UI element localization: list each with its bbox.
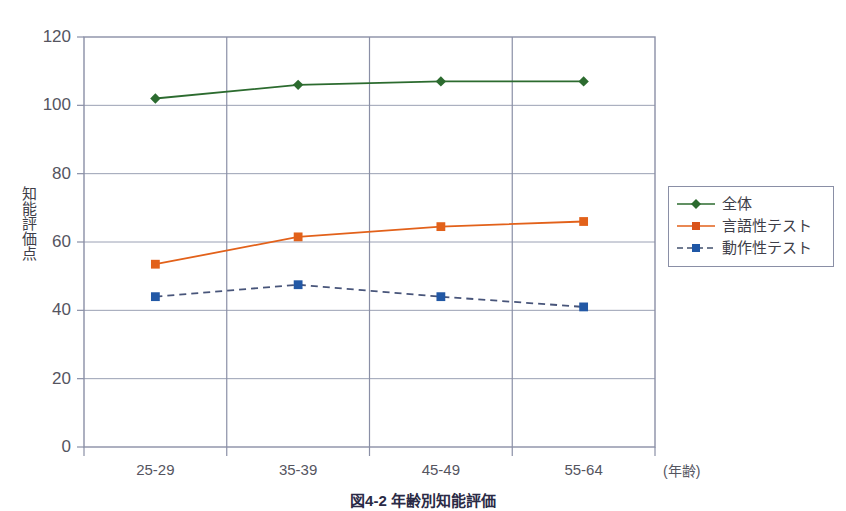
x-tick-label: 25-29 xyxy=(95,462,215,478)
y-tick-label: 80 xyxy=(25,165,71,182)
legend-item[interactable]: 全体 xyxy=(676,193,826,215)
legend-label-performance: 動作性テスト xyxy=(722,240,812,256)
y-tick-label: 40 xyxy=(25,301,71,318)
x-tick-label: 35-39 xyxy=(238,462,358,478)
legend-label-overall: 全体 xyxy=(722,196,752,212)
legend-key-performance xyxy=(676,241,716,255)
y-tick-label: 0 xyxy=(25,438,71,455)
x-tick-label: 45-49 xyxy=(381,462,501,478)
legend-item[interactable]: 動作性テスト xyxy=(676,237,826,259)
legend-label-verbal: 言語性テスト xyxy=(722,218,812,234)
legend-key-verbal xyxy=(676,219,716,233)
figure-caption: 図4-2 年齢別知能評価 xyxy=(0,492,846,510)
y-tick-label: 120 xyxy=(25,28,71,45)
y-tick-label: 20 xyxy=(25,370,71,387)
y-tick-label: 60 xyxy=(25,233,71,250)
legend-key-overall xyxy=(676,197,716,211)
legend: 全体 言語性テスト 動作性テスト xyxy=(668,186,834,267)
x-axis-tick-marks xyxy=(77,37,655,456)
legend-item[interactable]: 言語性テスト xyxy=(676,215,826,237)
figure-age-intelligence-chart: 知能評価点 020406080100120 25-2935-3945-4955-… xyxy=(0,0,846,511)
x-axis-unit-label: (年齢) xyxy=(663,463,700,479)
x-tick-label: 55-64 xyxy=(524,462,644,478)
y-tick-label: 100 xyxy=(25,96,71,113)
